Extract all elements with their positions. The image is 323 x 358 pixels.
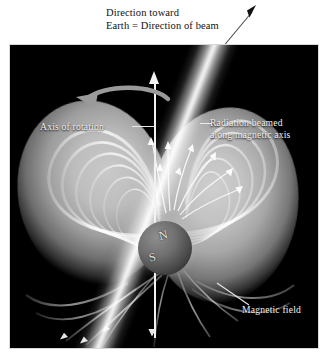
beam-direction-arrow-icon	[216, 2, 276, 50]
label-radiation-line-2: along magnetic axis	[210, 129, 318, 141]
curved-rotation-arrow-icon	[68, 83, 178, 125]
figure-root: Direction toward Earth = Direction of be…	[0, 0, 323, 358]
label-magnetic-field: Magnetic field	[242, 304, 301, 316]
leader-line-radiation	[200, 123, 212, 124]
label-radiation-beam: Radiation beamed along magnetic axis	[210, 117, 318, 141]
label-radiation-line-1: Radiation beamed	[210, 117, 318, 129]
leader-line-axis	[132, 126, 156, 127]
illustration-panel: N S Axis of rotation Radiation beamed al…	[10, 45, 318, 348]
label-axis-of-rotation: Axis of rotation	[40, 121, 104, 133]
